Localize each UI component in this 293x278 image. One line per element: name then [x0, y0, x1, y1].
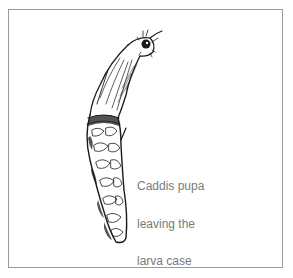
caption-line-3: larva case [137, 255, 204, 268]
caption-line-2: leaving the [137, 218, 204, 231]
figure-caption: Caddis pupa leaving the larva case [137, 155, 204, 278]
caption-line-1: Caddis pupa [137, 180, 204, 193]
